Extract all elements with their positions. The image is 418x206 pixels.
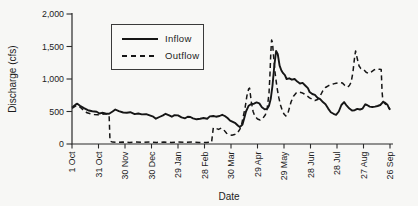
x-tick-label: 27 Aug <box>359 151 369 179</box>
chart-canvas: 05001,0001,5002,0001 Oct31 Oct30 Nov30 D… <box>0 0 418 206</box>
x-tick-label: 28 Jun <box>306 151 316 178</box>
y-tick-label: 500 <box>49 107 64 117</box>
y-tick-label: 1,500 <box>42 42 64 52</box>
x-tick-label: 26 Sep <box>385 151 395 179</box>
x-tick-label: 29 Jan <box>173 151 183 178</box>
legend-label-outflow: Outflow <box>165 50 199 61</box>
x-axis-title: Date <box>218 191 240 202</box>
inflow-line-sample-icon <box>121 36 159 42</box>
x-tick-label: 29 May <box>279 151 289 180</box>
y-tick-label: 1,000 <box>42 74 64 84</box>
x-tick-label: 28 Jul <box>332 151 342 175</box>
axis-layer: 05001,0001,5002,0001 Oct31 Oct30 Nov30 D… <box>42 9 395 180</box>
legend-item-outflow: Outflow <box>121 50 199 61</box>
x-tick-label: 31 Oct <box>94 151 104 177</box>
y-tick-label: 0 <box>59 139 64 149</box>
x-tick-label: 29 Apr <box>253 151 263 177</box>
y-axis-title: Discharge (cfs) <box>7 45 18 112</box>
y-tick-label: 2,000 <box>42 9 64 19</box>
legend-label-inflow: Inflow <box>165 33 192 44</box>
x-tick-label: 28 Feb <box>200 151 210 178</box>
x-tick-label: 30 Dec <box>147 151 157 179</box>
legend-item-inflow: Inflow <box>121 33 199 44</box>
discharge-hydrograph-figure: 05001,0001,5002,0001 Oct31 Oct30 Nov30 D… <box>0 0 418 206</box>
outflow-line-sample-icon <box>121 53 159 59</box>
chart-legend: Inflow Outflow <box>111 24 204 70</box>
x-tick-label: 1 Oct <box>67 151 77 173</box>
x-tick-label: 30 Mar <box>226 151 236 178</box>
x-tick-label: 30 Nov <box>120 151 130 179</box>
